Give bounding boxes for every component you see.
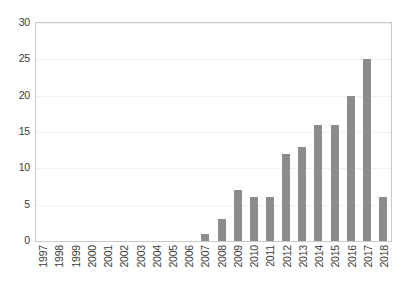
bar-slot [197, 23, 213, 241]
x-axis-tick-label: 2001 [103, 245, 114, 268]
bar [314, 125, 322, 241]
bar-slot [117, 23, 133, 241]
x-axis-slot: 2008 [214, 243, 230, 288]
x-axis-tick-label: 2015 [330, 245, 341, 268]
bar-slot [181, 23, 197, 241]
y-axis-tick-label: 10 [0, 162, 30, 173]
x-axis-tick-label: 2004 [152, 245, 163, 268]
bar-slot [310, 23, 326, 241]
bar [234, 190, 242, 241]
bar-slot [294, 23, 310, 241]
x-axis-tick-label: 2008 [216, 245, 227, 268]
bar-slot [214, 23, 230, 241]
x-axis-tick-label: 2016 [346, 245, 357, 268]
y-axis-tick-label: 15 [0, 126, 30, 137]
bar [379, 197, 387, 241]
bar-slot [52, 23, 68, 241]
bar [218, 219, 226, 241]
x-axis-slot: 2000 [84, 243, 100, 288]
x-axis-tick-label: 1999 [70, 245, 81, 268]
x-axis-tick-label: 2018 [379, 245, 390, 268]
bar [266, 197, 274, 241]
x-axis-slot: 2015 [327, 243, 343, 288]
x-axis-tick-label: 1998 [54, 245, 65, 268]
x-axis-slot: 2016 [343, 243, 359, 288]
y-axis-tick-label: 20 [0, 89, 30, 100]
x-axis-tick-label: 2011 [265, 245, 276, 267]
x-axis-tick-label: 2014 [314, 245, 325, 268]
plot-area [35, 22, 392, 242]
bar-slot [133, 23, 149, 241]
y-axis-tick-label: 5 [0, 198, 30, 209]
x-axis-slot: 1998 [51, 243, 67, 288]
x-axis-slot: 2001 [100, 243, 116, 288]
x-axis-tick-label: 1997 [38, 245, 49, 268]
bar-slot [375, 23, 391, 241]
bar-slot [278, 23, 294, 241]
x-axis-slot: 2017 [360, 243, 376, 288]
x-axis-slot: 2012 [279, 243, 295, 288]
bar-chart: 051015202530 199719981999200020012002200… [0, 0, 403, 288]
bar-slot [262, 23, 278, 241]
bar-slot [36, 23, 52, 241]
bar [347, 96, 355, 241]
x-axis-slot: 2013 [295, 243, 311, 288]
bar-slot [230, 23, 246, 241]
x-axis-slot: 2005 [165, 243, 181, 288]
x-axis-tick-label: 2005 [168, 245, 179, 268]
x-axis-tick-label: 2010 [249, 245, 260, 268]
x-axis-slot: 2011 [262, 243, 278, 288]
x-axis-tick-label: 2017 [363, 245, 374, 268]
y-axis: 051015202530 [0, 0, 30, 288]
bar-slot [84, 23, 100, 241]
bar-slot [246, 23, 262, 241]
y-axis-tick-label: 30 [0, 17, 30, 28]
x-axis-slot: 2003 [132, 243, 148, 288]
bars-series [36, 23, 391, 241]
x-axis: 1997199819992000200120022003200420052006… [35, 243, 392, 288]
bar-slot [165, 23, 181, 241]
x-axis-slot: 2004 [149, 243, 165, 288]
bar-slot [149, 23, 165, 241]
bar-slot [343, 23, 359, 241]
bar [282, 154, 290, 241]
bar-slot [327, 23, 343, 241]
x-axis-tick-label: 2012 [281, 245, 292, 268]
bar [363, 59, 371, 241]
x-axis-tick-label: 2013 [298, 245, 309, 268]
y-axis-tick-label: 0 [0, 235, 30, 246]
x-axis-slot: 1997 [35, 243, 51, 288]
bar [331, 125, 339, 241]
x-axis-slot: 2018 [376, 243, 392, 288]
x-axis-tick-label: 2007 [200, 245, 211, 268]
bar [298, 147, 306, 241]
x-axis-tick-label: 2006 [184, 245, 195, 268]
x-axis-slot: 2009 [230, 243, 246, 288]
x-axis-tick-label: 2009 [233, 245, 244, 268]
x-axis-slot: 2010 [246, 243, 262, 288]
x-axis-tick-label: 2002 [119, 245, 130, 268]
bar [201, 234, 209, 241]
x-axis-slot: 1999 [67, 243, 83, 288]
x-axis-slot: 2014 [311, 243, 327, 288]
bar-slot [101, 23, 117, 241]
x-axis-slot: 2006 [181, 243, 197, 288]
bar-slot [359, 23, 375, 241]
x-axis-slot: 2007 [197, 243, 213, 288]
y-axis-tick-label: 25 [0, 53, 30, 64]
bar-slot [68, 23, 84, 241]
x-axis-slot: 2002 [116, 243, 132, 288]
x-axis-tick-label: 2000 [87, 245, 98, 268]
x-axis-tick-label: 2003 [135, 245, 146, 268]
bar [250, 197, 258, 241]
